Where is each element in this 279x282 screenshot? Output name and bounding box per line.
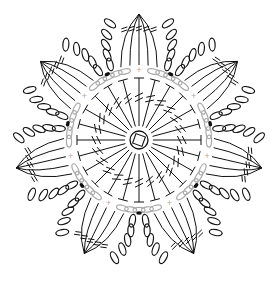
svg-text:+: +	[82, 91, 87, 101]
svg-text:+: +	[191, 91, 196, 101]
join-dot	[66, 121, 70, 125]
petal	[23, 38, 109, 125]
petals	[12, 14, 266, 265]
svg-text:+: +	[136, 65, 141, 75]
round1-trebles	[77, 78, 201, 202]
petal	[12, 123, 83, 202]
join-dot	[209, 123, 213, 127]
join-dot	[194, 184, 198, 188]
petal	[170, 38, 256, 125]
petal	[138, 184, 223, 264]
join-dot	[170, 73, 174, 77]
join-dot	[80, 183, 84, 187]
crochet-diagram: +++++++	[0, 0, 279, 282]
svg-text:+: +	[167, 198, 172, 208]
petal	[55, 184, 140, 264]
svg-text:+: +	[205, 151, 210, 161]
join-dot	[105, 73, 109, 77]
magic-ring	[130, 131, 148, 149]
svg-text:+: +	[68, 151, 73, 161]
join-dot	[136, 211, 140, 215]
petal	[195, 123, 266, 202]
svg-text:+: +	[106, 198, 111, 208]
